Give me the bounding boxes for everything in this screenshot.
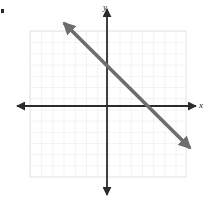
graph-canvas bbox=[0, 0, 213, 203]
grid-lines bbox=[30, 31, 186, 177]
x-axis-label: x bbox=[199, 101, 203, 110]
y-axis-label: y bbox=[103, 3, 107, 12]
coordinate-plane-figure: y x bbox=[0, 0, 213, 203]
